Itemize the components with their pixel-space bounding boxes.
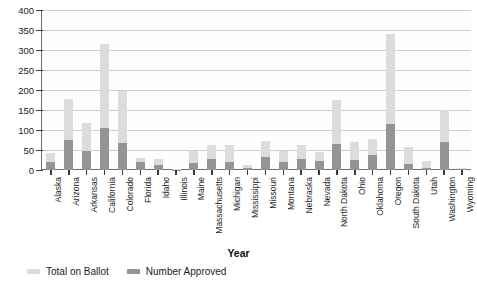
x-axis-tick-mark [372, 170, 374, 175]
chart-legend: Total on BallotNumber Approved [27, 266, 226, 277]
x-axis-tick-mark [86, 170, 88, 175]
y-axis-tick-label: 200 [4, 86, 34, 95]
bar-segment-number-approved[interactable] [46, 162, 55, 170]
x-axis-tick-label: North Dakota [340, 177, 349, 227]
x-axis-tick-label: Arkansas [90, 177, 99, 212]
x-axis-tick-mark [229, 170, 231, 175]
bar-segment-number-approved[interactable] [118, 143, 127, 170]
y-axis-tick-label: 400 [4, 6, 34, 15]
x-axis-tick-label: Washington [448, 177, 457, 222]
x-axis-tick-label: Maine [197, 177, 206, 200]
x-axis-tick-label: Arizona [72, 177, 81, 206]
x-axis-tick-mark [265, 170, 267, 175]
x-axis-tick-label: Ohio [358, 177, 367, 195]
y-axis-tick-mark [36, 50, 43, 52]
legend-label: Number Approved [146, 266, 227, 277]
x-axis-tick-label: Massachusetts [215, 177, 224, 234]
x-axis-tick-label: Montana [287, 177, 296, 210]
x-axis-tick-label: South Dakota [412, 177, 421, 229]
bar-segment-number-approved[interactable] [297, 159, 306, 170]
x-axis-tick-label: Colorado [126, 177, 135, 212]
bar-segment-number-approved[interactable] [386, 124, 395, 170]
y-axis-tick-mark [36, 170, 43, 172]
y-axis-tick-label: 50 [4, 146, 34, 155]
y-axis-tick-mark [36, 30, 43, 32]
x-axis-title: Year [0, 247, 477, 259]
bar-segment-number-approved[interactable] [350, 160, 359, 170]
x-axis-tick-label: Oklahoma [376, 177, 385, 216]
legend-item[interactable]: Number Approved [127, 266, 227, 277]
y-axis-tick-label: 150 [4, 106, 34, 115]
x-axis-tick-mark [104, 170, 106, 175]
x-axis-tick-mark [211, 170, 213, 175]
x-axis-tick-mark [68, 170, 70, 175]
x-axis-tick-mark [354, 170, 356, 175]
x-axis-ticks [42, 170, 471, 176]
x-axis-tick-mark [247, 170, 249, 175]
x-axis-tick-mark [140, 170, 142, 175]
x-axis-tick-label: Oregon [394, 177, 403, 205]
bar-chart: 050100150200250300350400 AlaskaArizonaAr… [0, 0, 477, 295]
bar-segment-number-approved[interactable] [315, 161, 324, 170]
y-axis: 050100150200250300350400 [0, 0, 34, 180]
legend-swatch [27, 269, 40, 274]
bar-segment-number-approved[interactable] [189, 163, 198, 170]
bar-segment-number-approved[interactable] [261, 157, 270, 170]
y-axis-tick-mark [36, 110, 43, 112]
bar-segment-number-approved[interactable] [82, 151, 91, 170]
bar-segment-number-approved[interactable] [368, 155, 377, 170]
x-axis-tick-mark [408, 170, 410, 175]
bar-segment-number-approved[interactable] [225, 162, 234, 170]
y-axis-tick-label: 0 [4, 166, 34, 175]
y-axis-tick-label: 250 [4, 66, 34, 75]
y-axis-tick-mark [36, 90, 43, 92]
x-axis-tick-label: Wyoming [466, 177, 475, 212]
y-axis-tick-mark [36, 130, 43, 132]
x-axis-tick-mark [122, 170, 124, 175]
bar-segment-number-approved[interactable] [100, 128, 109, 170]
y-axis-tick-label: 350 [4, 26, 34, 35]
y-axis-tick-label: 300 [4, 46, 34, 55]
x-axis-tick-label: Mississippi [251, 177, 260, 218]
x-axis-tick-mark [443, 170, 445, 175]
x-axis-tick-label: California [108, 177, 117, 213]
x-axis-tick-label: Missouri [269, 177, 278, 209]
x-axis-tick-mark [157, 170, 159, 175]
x-axis-tick-mark [426, 170, 428, 175]
x-axis-tick-label: Michigan [233, 177, 242, 211]
x-axis-tick-label: Alaska [54, 177, 63, 203]
x-axis-tick-mark [50, 170, 52, 175]
x-axis-tick-label: Florida [144, 177, 153, 203]
bars-layer [42, 10, 471, 170]
x-axis-tick-label: Nebraska [305, 177, 314, 213]
bar-segment-number-approved[interactable] [207, 159, 216, 170]
x-axis-tick-mark [193, 170, 195, 175]
y-axis-tick-label: 100 [4, 126, 34, 135]
x-axis-tick-mark [283, 170, 285, 175]
bar-segment-number-approved[interactable] [64, 140, 73, 170]
x-axis-tick-mark [390, 170, 392, 175]
x-axis-tick-label: Utah [430, 177, 439, 195]
bar-segment-number-approved[interactable] [136, 162, 145, 170]
bar-segment-number-approved[interactable] [440, 142, 449, 170]
bar-segment-number-approved[interactable] [279, 162, 288, 170]
y-axis-tick-mark [36, 70, 43, 72]
x-axis-tick-label: Illinois [180, 177, 189, 201]
x-axis-labels: AlaskaArizonaArkansasCaliforniaColoradoF… [42, 177, 471, 247]
bar-segment-number-approved[interactable] [332, 144, 341, 170]
x-axis-tick-mark [175, 170, 177, 175]
x-axis-tick-label: Idaho [162, 177, 171, 198]
x-axis-tick-label: Nevada [323, 177, 332, 206]
y-axis-tick-mark [36, 10, 43, 12]
legend-label: Total on Ballot [46, 266, 109, 277]
legend-swatch [127, 269, 140, 274]
legend-item[interactable]: Total on Ballot [27, 266, 109, 277]
x-axis-tick-mark [461, 170, 463, 175]
y-axis-tick-mark [36, 150, 43, 152]
x-axis-tick-mark [300, 170, 302, 175]
x-axis-tick-mark [318, 170, 320, 175]
x-axis-tick-mark [336, 170, 338, 175]
